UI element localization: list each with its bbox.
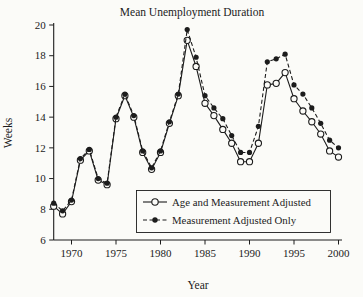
data-point-filled-circle (336, 145, 341, 150)
data-point-filled-circle (176, 92, 181, 97)
x-tick-label: 1990 (239, 247, 262, 259)
data-point-filled-circle (229, 133, 234, 138)
data-point-open-circle (211, 113, 217, 119)
mean-unemployment-duration-chart: Mean Unemployment Duration Weeks Year 68… (0, 0, 363, 297)
data-point-open-circle (282, 70, 288, 76)
data-point-filled-circle (113, 115, 118, 120)
data-point-filled-circle (105, 181, 110, 186)
data-point-filled-circle (300, 92, 305, 97)
data-point-open-circle (202, 100, 208, 106)
data-point-open-circle (335, 154, 341, 160)
data-point-filled-circle (211, 105, 216, 110)
data-point-filled-circle (60, 208, 65, 213)
data-point-open-circle (238, 159, 244, 165)
data-point-open-circle (264, 82, 270, 88)
figure: Mean Unemployment Duration Weeks Year 68… (0, 0, 363, 297)
data-point-filled-circle (291, 82, 296, 87)
data-point-open-circle (273, 80, 279, 86)
data-point-filled-circle (327, 138, 332, 143)
chart-title: Mean Unemployment Duration (120, 6, 265, 19)
data-point-filled-circle (283, 52, 288, 57)
x-tick-label: 2000 (328, 247, 351, 259)
data-point-open-circle (246, 159, 252, 165)
x-tick-label: 1970 (61, 247, 84, 259)
data-point-filled-circle (185, 27, 190, 32)
data-point-filled-circle (247, 150, 252, 155)
data-point-filled-circle (202, 93, 207, 98)
data-point-open-circle (291, 96, 297, 102)
x-tick-label: 1975 (105, 247, 128, 259)
data-point-filled-circle (265, 59, 270, 64)
data-point-filled-circle (274, 56, 279, 61)
y-tick-label: 12 (35, 142, 46, 154)
y-tick-label: 6 (40, 234, 46, 246)
data-point-filled-circle (238, 150, 243, 155)
data-point-open-circle (327, 148, 333, 154)
x-tick-label: 1985 (194, 247, 217, 259)
data-point-open-circle (220, 126, 226, 132)
data-point-open-circle (318, 131, 324, 137)
data-point-filled-circle (131, 113, 136, 118)
y-tick-label: 18 (35, 49, 47, 61)
data-point-filled-circle (309, 105, 314, 110)
filled-circle-marker-icon (152, 217, 157, 222)
data-point-open-circle (255, 140, 261, 146)
legend: Age and Measurement Adjusted Measurement… (137, 191, 331, 233)
data-point-filled-circle (149, 165, 154, 170)
y-tick-label: 20 (35, 19, 47, 31)
x-tick-label: 1995 (283, 247, 306, 259)
data-point-filled-circle (140, 148, 145, 153)
data-point-filled-circle (318, 121, 323, 126)
x-axis-label: Year (187, 279, 208, 291)
data-point-filled-circle (96, 176, 101, 181)
data-point-open-circle (300, 108, 306, 114)
y-axis-label: Weeks (2, 117, 14, 148)
data-point-filled-circle (78, 156, 83, 161)
open-circle-marker-icon (152, 199, 158, 205)
data-point-open-circle (229, 140, 235, 146)
data-point-filled-circle (256, 124, 261, 129)
data-point-filled-circle (51, 201, 56, 206)
legend-label-age-and-measurement-adjusted: Age and Measurement Adjusted (172, 196, 311, 208)
legend-label-measurement-adjusted-only: Measurement Adjusted Only (172, 214, 297, 226)
y-tick-label: 14 (35, 111, 47, 123)
y-tick-label: 10 (35, 172, 47, 184)
data-point-filled-circle (167, 119, 172, 124)
data-point-open-circle (309, 119, 315, 125)
data-point-open-circle (184, 37, 190, 43)
series-layer (51, 27, 342, 217)
data-point-filled-circle (220, 116, 225, 121)
y-tick-label: 8 (40, 203, 46, 215)
data-point-filled-circle (122, 92, 127, 97)
data-point-filled-circle (69, 197, 74, 202)
x-tick-label: 1980 (150, 247, 173, 259)
data-point-filled-circle (87, 147, 92, 152)
data-point-filled-circle (194, 55, 199, 60)
data-point-filled-circle (158, 148, 163, 153)
y-tick-label: 16 (35, 80, 47, 92)
